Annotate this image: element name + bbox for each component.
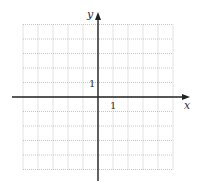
y-tick-label: 1 — [89, 78, 95, 89]
x-tick-label: 1 — [110, 100, 116, 111]
coordinate-plane: x y 1 1 — [0, 0, 198, 187]
y-axis-arrow-icon — [95, 12, 101, 20]
x-axis-label: x — [184, 99, 191, 112]
y-axis-label: y — [86, 8, 94, 21]
